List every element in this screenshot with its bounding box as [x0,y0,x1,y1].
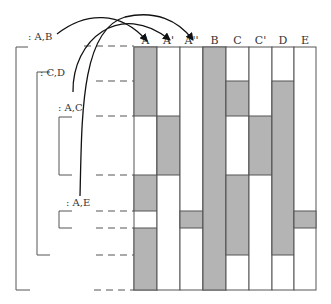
shaded-cell [203,47,226,290]
column-headers: AA'A''BCC'DE [141,34,309,47]
column-e [294,47,316,290]
column-header: E [301,34,309,47]
column-header: A'' [184,34,199,47]
arrow-a-b-to-a [57,18,147,41]
allocation-diagram: AA'A''BCC'DE : A,B : C,D : A,C : A,E [0,0,331,304]
group-label-a-b: : A,B [28,31,52,42]
shaded-cell [134,47,157,116]
column-header: B [210,34,218,47]
shaded-cell [249,116,272,175]
bracket-a-b [16,47,30,290]
shaded-cell [272,81,294,255]
group-label-c-d: : C,D [40,67,65,78]
shaded-cell [226,175,249,255]
shaded-cell [134,228,157,290]
group-label-a-e: : A,E [66,197,90,208]
brackets [16,47,72,290]
bracket-a-e [59,211,72,228]
shaded-cell [294,211,316,228]
bracket-c-d [37,72,50,255]
group-label-a-c: : A,C [58,102,83,113]
shaded-cell [157,116,180,175]
column-header: C' [255,34,266,47]
column-app [180,47,203,290]
bracket-a-c [59,117,72,175]
shaded-cell [180,211,203,228]
column-header: C [233,34,241,47]
shaded-cell [226,81,249,116]
shaded-cell [134,175,157,211]
column-header: D [279,34,288,47]
dashed-guides [84,46,134,290]
grid [134,47,316,290]
